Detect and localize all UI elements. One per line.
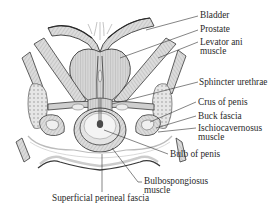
- anatomy-figure: Bladder Prostate Levator ani muscle Sphi…: [0, 0, 280, 215]
- crus-left: [40, 115, 65, 136]
- label-prostate: Prostate: [200, 25, 230, 35]
- label-ischiocavernosus-2: muscle: [198, 133, 224, 143]
- pelvis-diagram: [0, 0, 280, 215]
- label-levator-ani-2: muscle: [200, 47, 226, 57]
- label-bladder: Bladder: [200, 11, 229, 21]
- crus-right: [136, 115, 161, 136]
- label-bulb-of-penis: Bulb of penis: [170, 150, 220, 160]
- label-sphincter-urethrae: Sphincter urethrae: [199, 78, 267, 88]
- label-crus-of-penis: Crus of penis: [198, 98, 248, 108]
- label-buck-fascia: Buck fascia: [198, 112, 242, 122]
- superficial-perineal-fascia-shape: [38, 157, 160, 170]
- label-superficial-perineal-fascia: Superficial perineal fascia: [52, 194, 149, 204]
